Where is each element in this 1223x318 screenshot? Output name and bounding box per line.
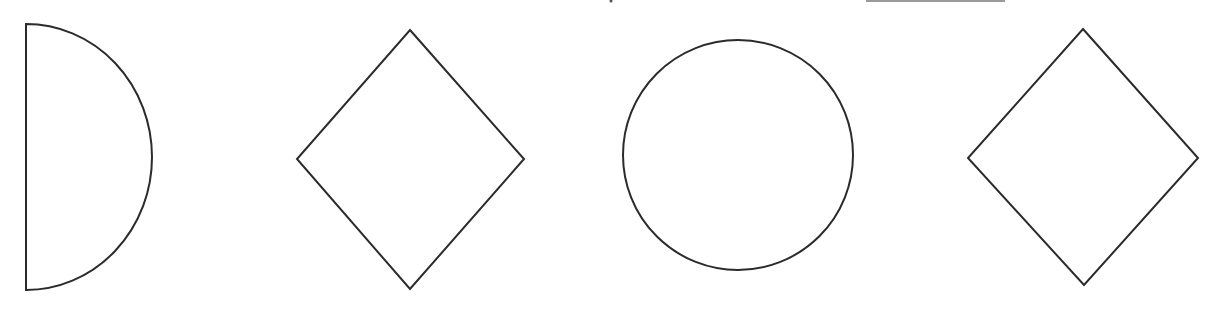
diamond-shape-left <box>297 30 524 289</box>
shapes-figure <box>0 0 1223 318</box>
semicircle-shape <box>26 24 152 290</box>
scan-artifact-dot <box>610 0 613 3</box>
diamond-shape-right <box>968 29 1198 285</box>
circle-shape <box>623 40 853 270</box>
